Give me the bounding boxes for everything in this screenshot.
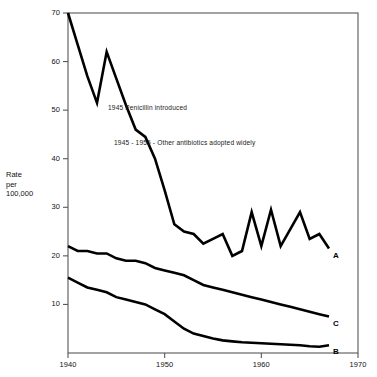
y-tick-label: 10 <box>34 299 60 308</box>
x-tick-label: 1940 <box>52 360 84 369</box>
x-tick-label: 1960 <box>245 360 277 369</box>
y-tick-label: 40 <box>34 154 60 163</box>
series-label-b: B <box>333 347 339 356</box>
data-series-group <box>68 13 329 347</box>
y-tick-label: 60 <box>34 57 60 66</box>
x-tick-label: 1970 <box>342 360 374 369</box>
series-line-a <box>68 13 329 256</box>
chart-annotation: 1945 - 1955 - Other antibiotics adopted … <box>114 139 255 146</box>
series-label-c: C <box>333 319 339 328</box>
y-tick-label: 20 <box>34 251 60 260</box>
y-tick-label: 30 <box>34 202 60 211</box>
series-line-b <box>68 278 329 347</box>
y-axis-tick-marks <box>63 13 68 304</box>
series-label-a: A <box>333 251 339 260</box>
y-tick-label: 70 <box>34 8 60 17</box>
x-axis-tick-marks <box>68 353 358 358</box>
y-axis-title-line: per <box>6 180 33 190</box>
series-line-c <box>68 246 329 316</box>
x-tick-label: 1950 <box>149 360 181 369</box>
y-tick-label: 50 <box>34 105 60 114</box>
chart-container: 10203040506070 1940195019601970 Rateper1… <box>0 0 377 377</box>
y-axis-title: Rateper100,000 <box>6 170 33 199</box>
y-axis-title-line: 100,000 <box>6 189 33 199</box>
y-axis-title-line: Rate <box>6 170 33 180</box>
chart-annotation: 1945 Penicillin introduced <box>108 104 187 111</box>
